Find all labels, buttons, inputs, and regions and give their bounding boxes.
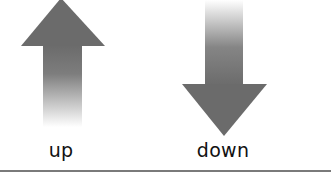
- down-label: down: [183, 139, 263, 161]
- up-arrow-icon: [21, 0, 105, 127]
- up-label: up: [21, 139, 101, 161]
- down-arrow-icon: [182, 0, 267, 136]
- baseline-divider: [0, 170, 331, 172]
